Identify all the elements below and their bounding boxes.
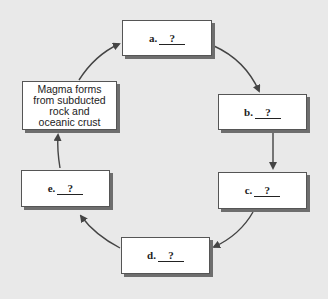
arrow-e-to-start: [58, 135, 60, 168]
start-box-magma: Magma forms from subducted rock and ocea…: [22, 81, 117, 130]
step-letter-b: b.: [244, 106, 253, 118]
step-blank-a: ?: [159, 33, 185, 45]
step-letter-c: c.: [245, 184, 253, 196]
step-box-d: d.?: [121, 237, 210, 274]
step-box-e: e.?: [21, 170, 110, 207]
step-letter-a: a.: [149, 32, 157, 44]
arrow-a-to-b: [214, 46, 259, 91]
step-blank-b: ?: [255, 107, 281, 119]
arrow-c-to-d: [214, 212, 253, 247]
step-blank-c: ?: [254, 185, 280, 197]
start-box-line-2: from subducted: [33, 95, 105, 106]
step-blank-d: ?: [158, 250, 184, 262]
step-blank-e: ?: [57, 183, 83, 195]
step-box-c: c.?: [218, 172, 307, 209]
start-box-line-1: Magma forms: [33, 84, 105, 95]
step-box-b: b.?: [218, 94, 307, 130]
step-letter-d: d.: [147, 249, 156, 261]
step-box-a: a.?: [122, 20, 212, 56]
start-box-line-4: oceanic crust: [33, 117, 105, 128]
arrow-d-to-e: [81, 216, 120, 248]
start-box-line-3: rock and: [33, 106, 105, 117]
step-letter-e: e.: [48, 182, 56, 194]
arrow-start-to-a: [79, 44, 119, 80]
